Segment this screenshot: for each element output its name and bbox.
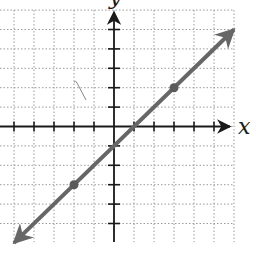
x-axis-label: x [238,114,251,139]
plotted-point [170,83,179,92]
y-axis-label: y [108,0,122,9]
plotted-point [70,180,79,189]
line-y-equals-x-minus-1 [14,30,234,243]
coordinate-graph: x y [0,0,256,264]
line-series [14,30,234,243]
stray-mark [74,81,86,100]
